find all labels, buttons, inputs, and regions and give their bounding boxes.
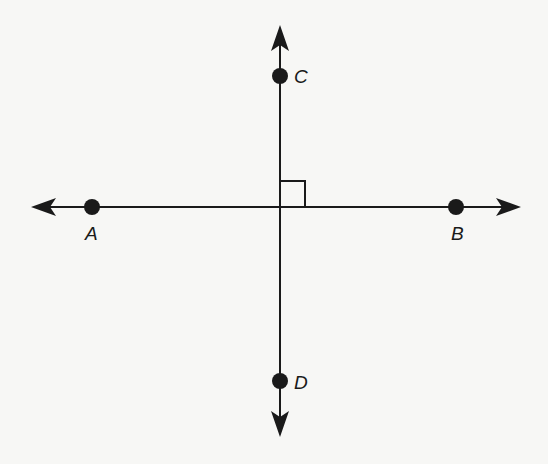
label-d: D (294, 372, 308, 393)
point-d (272, 373, 288, 389)
point-b (448, 199, 464, 215)
perpendicular-lines-diagram: A B C D (0, 0, 548, 464)
label-a: A (84, 223, 98, 244)
label-c: C (294, 66, 308, 87)
diagram-canvas: A B C D (0, 0, 548, 464)
point-c (272, 68, 288, 84)
right-angle-marker (281, 181, 305, 207)
point-a (84, 199, 100, 215)
line-ab (31, 198, 521, 216)
label-b: B (451, 223, 464, 244)
